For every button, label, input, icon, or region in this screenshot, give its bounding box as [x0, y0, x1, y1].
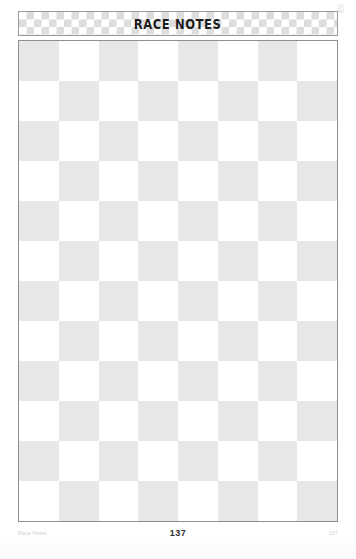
checker-cell — [218, 121, 258, 161]
checker-cell — [59, 81, 99, 121]
checker-cell — [218, 161, 258, 201]
checker-cell — [138, 81, 178, 121]
checker-cell — [258, 81, 298, 121]
header-banner: RACE NOTES — [18, 11, 338, 36]
checker-cell — [178, 441, 218, 481]
checker-cell — [258, 481, 298, 521]
checker-cell — [218, 441, 258, 481]
checker-cell — [218, 361, 258, 401]
checker-cell — [19, 481, 59, 521]
checker-cell — [59, 161, 99, 201]
checker-cell — [19, 441, 59, 481]
checker-cell — [138, 41, 178, 81]
checker-cell — [258, 321, 298, 361]
checker-cell — [138, 481, 178, 521]
checker-cell — [258, 281, 298, 321]
checker-cell — [138, 201, 178, 241]
checkerboard-grid — [19, 41, 337, 521]
scan-artifact-top-right — [337, 4, 344, 13]
checker-cell — [59, 121, 99, 161]
checker-cell — [178, 281, 218, 321]
checker-cell — [218, 241, 258, 281]
checker-cell — [297, 481, 337, 521]
checker-cell — [178, 241, 218, 281]
checker-cell — [19, 281, 59, 321]
checker-cell — [138, 441, 178, 481]
notes-area[interactable] — [18, 40, 338, 522]
checker-cell — [258, 441, 298, 481]
checker-cell — [59, 281, 99, 321]
checker-cell — [99, 121, 139, 161]
checker-cell — [258, 41, 298, 81]
checker-cell — [178, 361, 218, 401]
race-notes-page: RACE NOTES Race Notes 137 137 — [0, 0, 356, 559]
checker-cell — [19, 241, 59, 281]
checker-cell — [297, 241, 337, 281]
checker-cell — [178, 401, 218, 441]
checker-cell — [59, 441, 99, 481]
checker-cell — [59, 361, 99, 401]
checker-cell — [258, 201, 298, 241]
checker-cell — [99, 321, 139, 361]
checker-cell — [178, 81, 218, 121]
checker-cell — [138, 321, 178, 361]
checker-cell — [258, 121, 298, 161]
checker-cell — [138, 241, 178, 281]
checker-cell — [59, 401, 99, 441]
checker-cell — [138, 161, 178, 201]
checker-cell — [178, 321, 218, 361]
checker-cell — [218, 321, 258, 361]
checker-cell — [19, 401, 59, 441]
checker-cell — [19, 161, 59, 201]
checker-cell — [218, 41, 258, 81]
checker-cell — [218, 481, 258, 521]
checker-cell — [99, 41, 139, 81]
checker-cell — [297, 361, 337, 401]
checker-cell — [178, 161, 218, 201]
checker-cell — [258, 401, 298, 441]
header-title-wrap: RACE NOTES — [19, 12, 337, 35]
checker-cell — [178, 201, 218, 241]
checker-cell — [138, 281, 178, 321]
checker-cell — [99, 401, 139, 441]
checker-cell — [178, 481, 218, 521]
checker-cell — [218, 201, 258, 241]
checker-cell — [99, 81, 139, 121]
checker-cell — [19, 41, 59, 81]
checker-cell — [297, 121, 337, 161]
checker-cell — [99, 361, 139, 401]
footer-right-text: 137 — [329, 530, 338, 536]
page-title: RACE NOTES — [131, 17, 226, 31]
checker-cell — [99, 441, 139, 481]
checker-cell — [258, 241, 298, 281]
checker-cell — [138, 121, 178, 161]
checker-cell — [59, 41, 99, 81]
checker-cell — [218, 281, 258, 321]
checker-cell — [99, 241, 139, 281]
checker-cell — [59, 241, 99, 281]
checker-cell — [218, 81, 258, 121]
checker-cell — [297, 401, 337, 441]
checker-cell — [99, 481, 139, 521]
checker-cell — [19, 201, 59, 241]
checker-cell — [19, 81, 59, 121]
checker-cell — [178, 121, 218, 161]
checker-cell — [138, 361, 178, 401]
checker-cell — [297, 41, 337, 81]
checker-cell — [19, 361, 59, 401]
checker-cell — [59, 481, 99, 521]
checker-cell — [99, 161, 139, 201]
scan-artifact-bottom — [0, 537, 356, 559]
checker-cell — [218, 401, 258, 441]
checker-cell — [297, 201, 337, 241]
checker-cell — [99, 201, 139, 241]
checker-cell — [297, 441, 337, 481]
checker-cell — [297, 161, 337, 201]
checker-cell — [258, 361, 298, 401]
checker-cell — [178, 41, 218, 81]
checker-cell — [138, 401, 178, 441]
checker-cell — [297, 81, 337, 121]
checker-cell — [258, 161, 298, 201]
checker-cell — [59, 201, 99, 241]
checker-cell — [59, 321, 99, 361]
